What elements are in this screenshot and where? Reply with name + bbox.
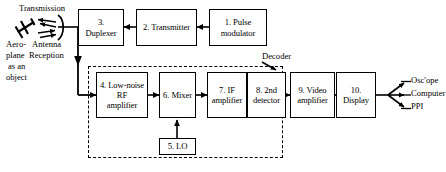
aeroplane-target-icon bbox=[16, 19, 35, 39]
radar-block-diagram: 1. Pulse modulator 2. Transmitter 3. Dup… bbox=[0, 0, 446, 172]
reception-echo-arrow-2 bbox=[40, 35, 56, 38]
reception-echo-arrow-1 bbox=[38, 31, 55, 34]
antenna-and-target-symbol bbox=[0, 0, 446, 172]
transmission-beam-arrow-1 bbox=[38, 20, 56, 23]
transmission-beam-arrow-2 bbox=[40, 24, 56, 28]
